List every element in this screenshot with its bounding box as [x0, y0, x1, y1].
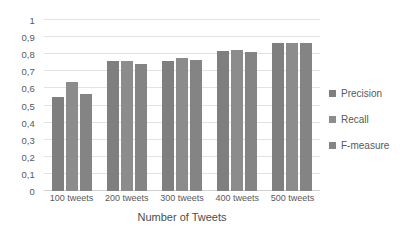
bar-recall: [176, 58, 188, 191]
y-axis-tick-label: 1: [30, 15, 35, 26]
bar-precision: [272, 43, 284, 191]
legend-item-precision[interactable]: Precision: [329, 88, 389, 99]
bar-f-measure: [135, 64, 147, 191]
legend-item-recall[interactable]: Recall: [329, 114, 389, 125]
bar-group: [210, 20, 265, 191]
x-axis-tick-label: 200 tweets: [99, 193, 154, 203]
bar-groups: [44, 20, 320, 191]
y-axis-tick-label: 0,7: [21, 66, 35, 77]
plot-area: [44, 20, 320, 191]
bar-group: [265, 20, 320, 191]
bar-recall: [231, 50, 243, 191]
bar-f-measure: [245, 52, 257, 191]
bar-f-measure: [190, 60, 202, 191]
bar-precision: [217, 51, 229, 191]
x-axis-tick-label: 500 tweets: [265, 193, 320, 203]
x-axis-labels: 100 tweets200 tweets300 tweets400 tweets…: [44, 193, 320, 203]
bar-group: [99, 20, 154, 191]
y-axis-tick-label: 0,2: [21, 151, 35, 162]
y-axis-tick-label: 0,8: [21, 49, 35, 60]
bar-chart: 00,10,20,30,40,50,60,70,80,91 100 tweets…: [0, 0, 403, 241]
y-axis-labels: 00,10,20,30,40,50,60,70,80,91: [0, 20, 40, 191]
x-axis-tick-label: 300 tweets: [154, 193, 209, 203]
bar-precision: [162, 61, 174, 191]
y-axis-tick-label: 0,1: [21, 168, 35, 179]
bar-recall: [66, 82, 78, 191]
bar-recall: [121, 61, 133, 191]
y-axis-tick-label: 0,9: [21, 32, 35, 43]
x-axis-tick-label: 100 tweets: [44, 193, 99, 203]
x-axis-tick-label: 400 tweets: [210, 193, 265, 203]
bar-precision: [52, 97, 64, 191]
legend-item-f-measure[interactable]: F-measure: [329, 140, 389, 151]
bar-group: [154, 20, 209, 191]
bar-precision: [107, 61, 119, 191]
bar-f-measure: [80, 94, 92, 191]
y-axis-tick-label: 0,3: [21, 134, 35, 145]
legend-swatch-icon: [329, 142, 336, 149]
bar-recall: [286, 43, 298, 191]
y-axis-tick-label: 0,5: [21, 100, 35, 111]
legend-label: Precision: [341, 88, 382, 99]
bar-group: [44, 20, 99, 191]
bar-f-measure: [300, 43, 312, 191]
legend-swatch-icon: [329, 90, 336, 97]
legend-label: Recall: [341, 114, 369, 125]
y-axis-tick-label: 0,6: [21, 83, 35, 94]
chart-legend: PrecisionRecallF-measure: [329, 88, 389, 151]
x-axis-title: Number of Tweets: [44, 211, 320, 223]
legend-swatch-icon: [329, 116, 336, 123]
y-axis-tick-label: 0,4: [21, 117, 35, 128]
legend-label: F-measure: [341, 140, 389, 151]
y-axis-tick-label: 0: [30, 186, 35, 197]
